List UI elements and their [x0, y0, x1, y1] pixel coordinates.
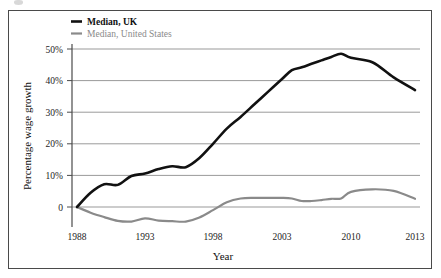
y-tick-label-50: 50%	[46, 45, 64, 55]
gridlines	[72, 49, 420, 207]
y-tick-label-10: 10%	[46, 171, 64, 181]
x-axis-title: Year	[213, 250, 234, 262]
y-axis-title: Percentage wage growth	[21, 81, 33, 190]
legend-label-median-united-states: Median, United States	[87, 29, 172, 39]
y-tick-label-30: 30%	[46, 108, 64, 118]
x-tick-label-2013: 2013	[406, 232, 425, 242]
y-tick-label-40: 40%	[46, 76, 64, 86]
x-tick-label-2010: 2010	[342, 232, 361, 242]
figure-container: 50% 40% 30% 20% 10% 0 Percentage wage gr…	[0, 0, 441, 278]
chart-canvas: 50% 40% 30% 20% 10% 0 Percentage wage gr…	[0, 0, 441, 278]
x-tick-label-1998: 1998	[204, 232, 223, 242]
y-axis-ticks	[67, 49, 72, 207]
x-tick-label-1993: 1993	[136, 232, 155, 242]
x-tick-label-2003: 2003	[273, 232, 292, 242]
y-tick-label-0: 0	[58, 203, 63, 213]
legend-label-median-uk: Median, UK	[87, 17, 138, 27]
legend: Median, UK Median, United States	[71, 17, 172, 39]
x-tick-label-1988: 1988	[68, 232, 87, 242]
series-line-median-uk	[77, 54, 415, 207]
series-line-median-united-states	[77, 189, 415, 222]
y-tick-label-20: 20%	[46, 139, 64, 149]
